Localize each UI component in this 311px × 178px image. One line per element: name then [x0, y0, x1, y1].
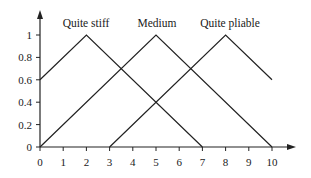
label-quite-pliable: Quite pliable: [200, 17, 260, 30]
y-tick-label: 0.6: [18, 74, 32, 86]
x-tick-label: 8: [223, 156, 229, 168]
y-tick-label: 0.8: [18, 51, 32, 63]
y-tick-label: 0: [27, 141, 33, 153]
x-tick-label: 3: [107, 156, 113, 168]
x-axis: 0 1 2 3 4 5 6 7 8 9 10: [37, 144, 296, 168]
x-tick-label: 0: [37, 156, 43, 168]
x-tick-label: 4: [130, 156, 136, 168]
x-tick-label: 1: [60, 156, 66, 168]
series-medium: [40, 35, 272, 147]
x-tick-label: 9: [246, 156, 252, 168]
x-tick-label: 6: [176, 156, 182, 168]
membership-function-chart: 0 0.2 0.4 0.6 0.8 1 0 1 2 3 4 5 6 7 8: [0, 0, 311, 178]
x-tick-label: 7: [200, 156, 206, 168]
x-tick-label: 10: [267, 156, 279, 168]
y-axis-arrow-icon: [37, 10, 43, 19]
y-axis: 0 0.2 0.4 0.6 0.8 1: [18, 10, 43, 153]
label-quite-stiff: Quite stiff: [63, 17, 110, 29]
label-medium: Medium: [138, 17, 177, 29]
x-tick-label: 2: [84, 156, 90, 168]
x-tick-label: 5: [153, 156, 159, 168]
series-quite-stiff: [40, 35, 202, 147]
x-axis-arrow-icon: [287, 144, 296, 150]
y-tick-label: 0.2: [18, 119, 32, 131]
y-tick-label: 0.4: [18, 96, 32, 108]
series-quite-pliable: [110, 35, 272, 147]
y-tick-label: 1: [27, 29, 33, 41]
